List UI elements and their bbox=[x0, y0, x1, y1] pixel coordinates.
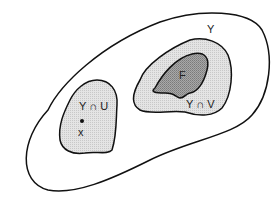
label-point-x: x bbox=[78, 126, 84, 138]
label-y-cap-u: Y ∩ U bbox=[79, 100, 108, 112]
label-y-cap-v: Y ∩ V bbox=[186, 98, 215, 110]
point-x-dot bbox=[80, 119, 84, 123]
label-f: F bbox=[179, 69, 186, 81]
label-y: Y bbox=[207, 23, 215, 35]
set-diagram: Y Y ∩ V F Y ∩ U x bbox=[0, 0, 280, 212]
